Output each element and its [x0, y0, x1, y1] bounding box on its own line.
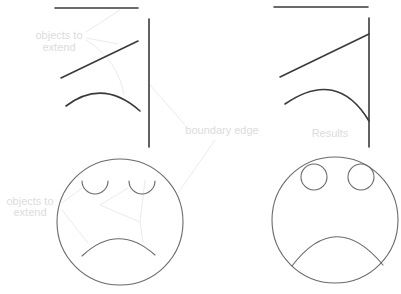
objects-to-extend-label-top-2: extend — [42, 41, 75, 53]
extended-mouth-arc — [292, 237, 383, 266]
extend-diagram: objects to extend boundary edge objects … — [0, 0, 401, 294]
leader-line — [140, 180, 145, 222]
leader-line — [178, 140, 215, 193]
face-outline-circle — [272, 157, 398, 283]
right-eye-arc — [129, 181, 155, 194]
left-eye-circle — [301, 164, 327, 190]
objects-to-extend-label-bottom-2: extend — [13, 206, 46, 218]
leader-line — [62, 210, 88, 243]
left-eye-arc — [82, 181, 108, 194]
leader-line — [150, 85, 185, 125]
leader-line — [140, 222, 143, 242]
boundary-edge-label: boundary edge — [185, 124, 258, 136]
extended-angled-line — [280, 34, 369, 77]
leader-line — [100, 205, 140, 222]
face-outline-circle — [57, 159, 183, 285]
leader-line — [86, 40, 124, 95]
mouth-arc — [82, 239, 155, 256]
labels: objects to extend boundary edge objects … — [6, 29, 348, 218]
after-lines-panel — [274, 7, 369, 147]
objects-to-extend-label-top-1: objects to — [35, 29, 82, 41]
right-eye-circle — [348, 164, 374, 190]
extended-arc-line — [285, 89, 369, 121]
leader-line — [86, 10, 120, 32]
after-face-panel — [272, 157, 398, 283]
results-label: Results — [312, 127, 349, 139]
arc-line — [66, 93, 140, 111]
before-face-panel — [57, 159, 183, 285]
